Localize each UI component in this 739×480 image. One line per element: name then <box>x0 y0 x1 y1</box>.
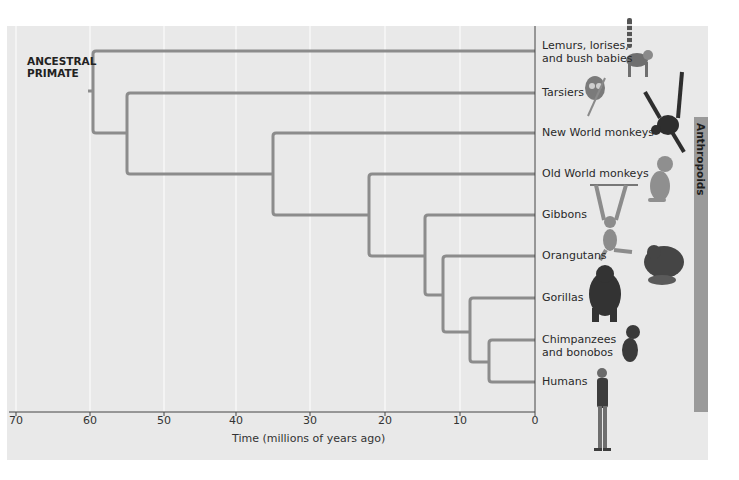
taxon-label-new-world-monkeys: New World monkeys <box>542 126 654 139</box>
ancestral-primate-label: ANCESTRAL PRIMATE <box>27 55 96 79</box>
taxon-label-old-world-monkeys: Old World monkeys <box>542 167 649 180</box>
x-tick: 50 <box>157 414 171 427</box>
x-tick: 70 <box>9 414 23 427</box>
anthropoids-label: Anthropoids <box>694 123 708 196</box>
x-tick: 60 <box>83 414 97 427</box>
taxon-label-line: Lemurs, lorises, <box>542 39 633 52</box>
gorilla-icon <box>589 265 621 322</box>
root-label-line2: PRIMATE <box>27 67 96 79</box>
x-tick: 40 <box>229 414 243 427</box>
anthropoids-bracket: Anthropoids <box>694 117 708 412</box>
taxon-label-gibbons: Gibbons <box>542 208 587 221</box>
old-world-monkey-icon <box>648 156 673 202</box>
orangutan-icon <box>644 245 684 285</box>
axes <box>9 26 535 416</box>
phylogenetic-tree <box>0 0 739 480</box>
tree-branches <box>88 51 535 382</box>
x-tick: 20 <box>378 414 392 427</box>
chimpanzee-icon <box>622 325 640 362</box>
taxon-label-orangutans: Orangutans <box>542 249 607 262</box>
root-label-line1: ANCESTRAL <box>27 55 96 67</box>
taxon-label-line: Chimpanzees <box>542 333 616 346</box>
taxon-label-gorillas: Gorillas <box>542 291 583 304</box>
x-tick: 10 <box>453 414 467 427</box>
taxon-label-humans: Humans <box>542 375 587 388</box>
x-axis-label: Time (millions of years ago) <box>232 432 385 445</box>
human-icon <box>594 368 611 451</box>
x-tick: 0 <box>532 414 539 427</box>
taxon-label-lemurs: Lemurs, lorises, and bush babies <box>542 39 633 65</box>
taxon-label-chimpanzees: Chimpanzees and bonobos <box>542 333 616 359</box>
grid-lines <box>16 26 460 412</box>
taxon-label-tarsiers: Tarsiers <box>542 86 584 99</box>
tarsier-icon <box>585 76 605 116</box>
spider-monkey-icon <box>645 72 684 152</box>
taxon-label-line: and bonobos <box>542 346 616 359</box>
x-tick: 30 <box>303 414 317 427</box>
taxon-label-line: and bush babies <box>542 52 633 65</box>
